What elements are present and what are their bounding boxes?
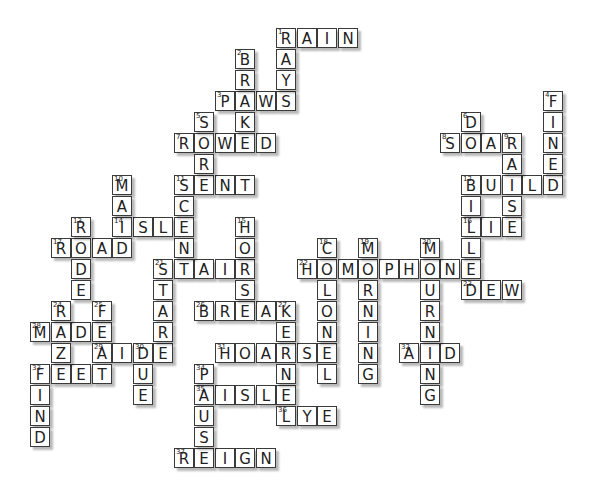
crossword-cell[interactable]: 37R	[174, 448, 194, 468]
crossword-cell[interactable]: D	[440, 343, 460, 363]
crossword-cell[interactable]: 24R	[51, 301, 71, 321]
crossword-cell[interactable]: Y	[297, 406, 317, 426]
crossword-cell[interactable]: E	[276, 385, 296, 405]
crossword-cell[interactable]: E	[174, 217, 194, 237]
crossword-cell[interactable]: I	[215, 259, 235, 279]
crossword-cell[interactable]: E	[317, 406, 337, 426]
crossword-cell[interactable]: O	[461, 133, 481, 153]
crossword-cell[interactable]: N	[358, 301, 378, 321]
crossword-cell[interactable]: A	[502, 154, 522, 174]
crossword-cell[interactable]: 12B	[461, 175, 481, 195]
crossword-cell[interactable]: P	[379, 259, 399, 279]
crossword-cell[interactable]: G	[358, 364, 378, 384]
crossword-cell[interactable]: D	[71, 259, 91, 279]
crossword-cell[interactable]: O	[317, 301, 337, 321]
crossword-cell[interactable]: I	[358, 322, 378, 342]
crossword-cell[interactable]: W	[256, 91, 276, 111]
crossword-cell[interactable]: A	[153, 301, 173, 321]
crossword-cell[interactable]: E	[92, 322, 112, 342]
crossword-cell[interactable]: K	[235, 112, 255, 132]
crossword-cell[interactable]: I	[543, 112, 563, 132]
crossword-cell[interactable]: I	[502, 175, 522, 195]
crossword-cell[interactable]: W	[215, 133, 235, 153]
crossword-cell[interactable]: D	[30, 427, 50, 447]
crossword-cell[interactable]: I	[112, 343, 132, 363]
crossword-cell[interactable]: D	[543, 175, 563, 195]
crossword-cell[interactable]: 27K	[276, 301, 296, 321]
crossword-cell[interactable]: 1R	[276, 28, 296, 48]
crossword-cell[interactable]: N	[174, 238, 194, 258]
crossword-cell[interactable]: 7R	[174, 133, 194, 153]
crossword-cell[interactable]: 5S	[194, 112, 214, 132]
crossword-cell[interactable]: I	[461, 196, 481, 216]
crossword-cell[interactable]: I	[317, 28, 337, 48]
crossword-cell[interactable]: A	[112, 196, 132, 216]
crossword-cell[interactable]: U	[420, 280, 440, 300]
crossword-cell[interactable]: 9R	[502, 133, 522, 153]
crossword-cell[interactable]: R	[235, 259, 255, 279]
crossword-cell[interactable]: O	[235, 238, 255, 258]
crossword-cell[interactable]: E	[153, 343, 173, 363]
crossword-cell[interactable]: A	[256, 343, 276, 363]
crossword-cell[interactable]: 19M	[358, 238, 378, 258]
crossword-cell[interactable]: I	[481, 217, 501, 237]
crossword-cell[interactable]: S	[235, 280, 255, 300]
crossword-cell[interactable]: 25F	[92, 301, 112, 321]
crossword-cell[interactable]: T	[174, 259, 194, 279]
crossword-cell[interactable]: 16L	[461, 217, 481, 237]
crossword-cell[interactable]: 15H	[235, 217, 255, 237]
crossword-cell[interactable]: 26B	[194, 301, 214, 321]
crossword-cell[interactable]: R	[215, 301, 235, 321]
crossword-cell[interactable]: O	[358, 259, 378, 279]
crossword-cell[interactable]: E	[51, 364, 71, 384]
crossword-cell[interactable]: I	[30, 385, 50, 405]
crossword-cell[interactable]: S	[133, 217, 153, 237]
crossword-cell[interactable]: C	[174, 196, 194, 216]
crossword-cell[interactable]: L	[153, 217, 173, 237]
crossword-cell[interactable]: N	[256, 448, 276, 468]
crossword-cell[interactable]: A	[92, 238, 112, 258]
crossword-cell[interactable]: E	[71, 280, 91, 300]
crossword-cell[interactable]: O	[71, 238, 91, 258]
crossword-cell[interactable]: S	[235, 385, 255, 405]
crossword-cell[interactable]: I	[215, 448, 235, 468]
crossword-cell[interactable]: T	[92, 364, 112, 384]
crossword-cell[interactable]: 14I	[112, 217, 132, 237]
crossword-cell[interactable]: O	[194, 133, 214, 153]
crossword-cell[interactable]: 31H	[215, 343, 235, 363]
crossword-cell[interactable]: U	[194, 406, 214, 426]
crossword-cell[interactable]: N	[543, 133, 563, 153]
crossword-cell[interactable]: L	[317, 364, 337, 384]
crossword-cell[interactable]: T	[235, 175, 255, 195]
crossword-cell[interactable]: 17R	[51, 238, 71, 258]
crossword-cell[interactable]: H	[399, 259, 419, 279]
crossword-cell[interactable]: 34P	[194, 364, 214, 384]
crossword-cell[interactable]: D	[71, 322, 91, 342]
crossword-cell[interactable]: O	[317, 259, 337, 279]
crossword-cell[interactable]: N	[440, 259, 460, 279]
crossword-cell[interactable]: 30D	[133, 343, 153, 363]
crossword-cell[interactable]: E	[317, 343, 337, 363]
crossword-cell[interactable]: A	[481, 133, 501, 153]
crossword-cell[interactable]: E	[481, 280, 501, 300]
crossword-cell[interactable]: E	[502, 217, 522, 237]
crossword-cell[interactable]: N	[420, 364, 440, 384]
crossword-cell[interactable]: E	[461, 259, 481, 279]
crossword-cell[interactable]: T	[153, 280, 173, 300]
crossword-cell[interactable]: N	[276, 364, 296, 384]
crossword-cell[interactable]: N	[215, 175, 235, 195]
crossword-cell[interactable]: 8S	[440, 133, 460, 153]
crossword-cell[interactable]: D	[112, 238, 132, 258]
crossword-cell[interactable]: L	[317, 280, 337, 300]
crossword-cell[interactable]: N	[358, 343, 378, 363]
crossword-cell[interactable]: U	[481, 175, 501, 195]
crossword-cell[interactable]: N	[420, 322, 440, 342]
crossword-cell[interactable]: 36L	[276, 406, 296, 426]
crossword-cell[interactable]: N	[30, 406, 50, 426]
crossword-cell[interactable]: R	[358, 280, 378, 300]
crossword-cell[interactable]: N	[338, 28, 358, 48]
crossword-cell[interactable]: A	[256, 301, 276, 321]
crossword-cell[interactable]: 13R	[71, 217, 91, 237]
crossword-cell[interactable]: S	[276, 91, 296, 111]
crossword-cell[interactable]: A	[194, 259, 214, 279]
